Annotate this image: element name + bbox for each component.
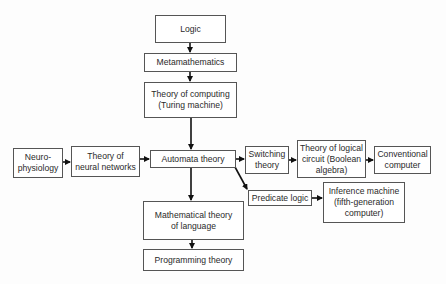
node-predicate-logic: Predicate logic [248, 190, 312, 206]
node-conventional-computer: Conventional computer [374, 146, 431, 174]
node-theory-of-computing: Theory of computing (Turing machine) [144, 82, 237, 118]
node-neural-networks: Theory of neural networks [71, 146, 140, 177]
node-programming-theory: Programming theory [143, 249, 244, 271]
node-automata-theory: Automata theory [150, 150, 236, 168]
node-logical-circuit: Theory of logical circuit (Boolean algeb… [297, 140, 366, 178]
node-math-theory-language: Mathematical theory of language [143, 201, 244, 240]
node-switching-theory: Switching theory [245, 146, 289, 174]
node-logic: Logic [155, 15, 226, 43]
node-metamathematics: Metamathematics [144, 53, 237, 72]
node-inference-machine: Inference machine (fifth-generation comp… [323, 182, 405, 223]
node-neurophysiology: Neuro- physiology [13, 148, 63, 178]
diagram-canvas: Logic Metamathematics Theory of computin… [0, 0, 446, 284]
